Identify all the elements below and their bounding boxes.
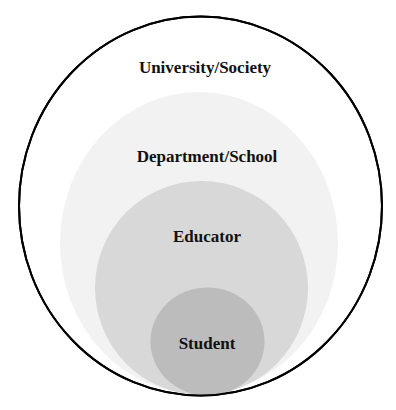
- student-label: Student: [179, 334, 236, 353]
- department-label: Department/School: [137, 147, 278, 166]
- university-label: University/Society: [139, 58, 272, 77]
- educator-label: Educator: [173, 227, 241, 246]
- nested-circles-diagram: University/Society Department/School Edu…: [0, 0, 396, 410]
